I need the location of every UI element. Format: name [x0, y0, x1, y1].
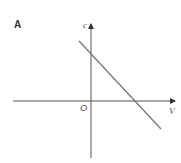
diagram-canvas	[0, 0, 181, 163]
y-axis-label: c	[83, 20, 87, 30]
x-axis-label: V	[169, 106, 175, 116]
origin-label: O	[80, 103, 87, 113]
